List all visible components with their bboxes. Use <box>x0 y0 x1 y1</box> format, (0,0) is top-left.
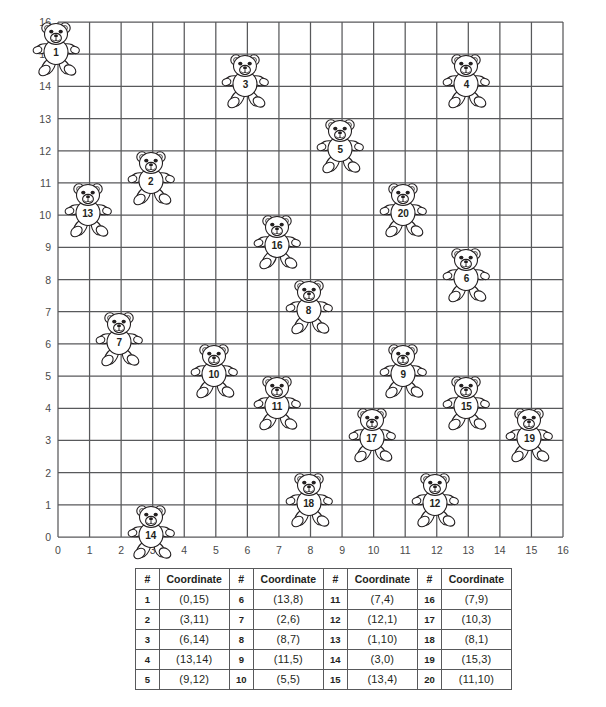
table-row: 1(0,15)6(13,8)11(7,4)16(7,9) <box>136 590 512 610</box>
bear-marker-19: 19 <box>502 403 560 465</box>
coordinate-grid-plot: 0123456789101112131415160123456789101112… <box>0 0 606 560</box>
table-cell-number: 10 <box>229 670 253 690</box>
table-cell-number: 15 <box>323 670 347 690</box>
y-axis-tick-9: 9 <box>45 241 51 253</box>
table-cell-number: 11 <box>323 590 347 610</box>
table-cell-coordinate: (10,3) <box>441 610 511 630</box>
table-header-coordinate: Coordinate <box>347 569 417 590</box>
table-cell-number: 6 <box>229 590 253 610</box>
table-cell-number: 16 <box>417 590 441 610</box>
table-cell-number: 4 <box>136 650 160 670</box>
bear-marker-1: 1 <box>29 17 87 79</box>
bear-marker-7: 7 <box>92 307 150 369</box>
table-cell-number: 9 <box>229 650 253 670</box>
x-axis-tick-4: 4 <box>181 544 187 556</box>
x-axis-tick-1: 1 <box>87 544 93 556</box>
y-axis-tick-5: 5 <box>45 370 51 382</box>
bear-marker-20: 20 <box>376 178 434 240</box>
y-axis-tick-6: 6 <box>45 338 51 350</box>
coordinate-table-container: #Coordinate#Coordinate#Coordinate#Coordi… <box>135 568 512 690</box>
table-cell-coordinate: (11,10) <box>441 670 511 690</box>
x-axis-tick-10: 10 <box>368 544 380 556</box>
bear-marker-14: 14 <box>124 500 182 562</box>
x-axis-tick-16: 16 <box>557 544 569 556</box>
table-cell-number: 7 <box>229 610 253 630</box>
x-axis-tick-8: 8 <box>308 544 314 556</box>
coordinate-table: #Coordinate#Coordinate#Coordinate#Coordi… <box>135 568 512 690</box>
table-cell-number: 20 <box>417 670 441 690</box>
table-body: 1(0,15)6(13,8)11(7,4)16(7,9)2(3,11)7(2,6… <box>136 590 512 690</box>
table-cell-coordinate: (13,8) <box>253 590 323 610</box>
bear-marker-17: 17 <box>345 403 403 465</box>
table-header-number: # <box>323 569 347 590</box>
table-cell-coordinate: (3,11) <box>159 610 229 630</box>
x-axis-tick-7: 7 <box>276 544 282 556</box>
x-axis-tick-9: 9 <box>339 544 345 556</box>
y-axis-tick-12: 12 <box>39 145 51 157</box>
table-cell-coordinate: (9,12) <box>159 670 229 690</box>
y-axis-tick-7: 7 <box>45 306 51 318</box>
bear-marker-15: 15 <box>439 371 497 433</box>
y-axis-tick-0: 0 <box>45 531 51 543</box>
table-cell-coordinate: (11,5) <box>253 650 323 670</box>
table-header-row: #Coordinate#Coordinate#Coordinate#Coordi… <box>136 569 512 590</box>
table-cell-coordinate: (7,4) <box>347 590 417 610</box>
table-cell-coordinate: (7,9) <box>441 590 511 610</box>
table-head: #Coordinate#Coordinate#Coordinate#Coordi… <box>136 569 512 590</box>
x-axis-tick-15: 15 <box>526 544 538 556</box>
bear-marker-6: 6 <box>439 243 497 305</box>
table-header-coordinate: Coordinate <box>253 569 323 590</box>
table-cell-number: 2 <box>136 610 160 630</box>
table-cell-number: 13 <box>323 630 347 650</box>
table-cell-coordinate: (1,10) <box>347 630 417 650</box>
y-axis-tick-1: 1 <box>45 499 51 511</box>
bear-marker-16: 16 <box>250 210 308 272</box>
y-axis-tick-13: 13 <box>39 113 51 125</box>
bear-marker-4: 4 <box>439 49 497 111</box>
table-header-number: # <box>417 569 441 590</box>
table-header-coordinate: Coordinate <box>441 569 511 590</box>
table-cell-coordinate: (12,1) <box>347 610 417 630</box>
y-axis-tick-8: 8 <box>45 274 51 286</box>
y-axis-tick-3: 3 <box>45 434 51 446</box>
table-cell-number: 8 <box>229 630 253 650</box>
table-row: 3(6,14)8(8,7)13(1,10)18(8,1) <box>136 630 512 650</box>
table-cell-number: 5 <box>136 670 160 690</box>
bear-marker-9: 9 <box>376 339 434 401</box>
table-header-number: # <box>229 569 253 590</box>
x-axis-tick-0: 0 <box>55 544 61 556</box>
table-cell-coordinate: (13,14) <box>159 650 229 670</box>
y-axis-tick-10: 10 <box>39 209 51 221</box>
x-axis-tick-14: 14 <box>494 544 506 556</box>
table-cell-number: 18 <box>417 630 441 650</box>
table-cell-number: 14 <box>323 650 347 670</box>
bear-marker-3: 3 <box>218 49 276 111</box>
bear-marker-18: 18 <box>282 468 340 530</box>
x-axis-tick-6: 6 <box>244 544 250 556</box>
table-header-number: # <box>136 569 160 590</box>
table-cell-number: 12 <box>323 610 347 630</box>
bear-marker-8: 8 <box>282 275 340 337</box>
table-row: 2(3,11)7(2,6)12(12,1)17(10,3) <box>136 610 512 630</box>
table-cell-number: 3 <box>136 630 160 650</box>
table-row: 5(9,12)10(5,5)15(13,4)20(11,10) <box>136 670 512 690</box>
y-axis-tick-2: 2 <box>45 467 51 479</box>
y-axis-tick-11: 11 <box>40 177 51 189</box>
x-axis-tick-5: 5 <box>213 544 219 556</box>
bear-marker-11: 11 <box>250 371 308 433</box>
table-cell-coordinate: (6,14) <box>159 630 229 650</box>
table-row: 4(13,14)9(11,5)14(3,0)19(15,3) <box>136 650 512 670</box>
y-axis-tick-14: 14 <box>39 80 51 92</box>
x-axis-tick-11: 11 <box>400 544 411 556</box>
table-cell-coordinate: (2,6) <box>253 610 323 630</box>
bear-marker-13: 13 <box>61 178 119 240</box>
table-cell-number: 1 <box>136 590 160 610</box>
table-cell-coordinate: (0,15) <box>159 590 229 610</box>
table-cell-coordinate: (15,3) <box>441 650 511 670</box>
y-axis-tick-4: 4 <box>45 402 51 414</box>
bear-marker-12: 12 <box>408 468 466 530</box>
x-axis-tick-12: 12 <box>431 544 443 556</box>
table-cell-number: 17 <box>417 610 441 630</box>
x-axis-tick-13: 13 <box>462 544 474 556</box>
table-cell-coordinate: (13,4) <box>347 670 417 690</box>
